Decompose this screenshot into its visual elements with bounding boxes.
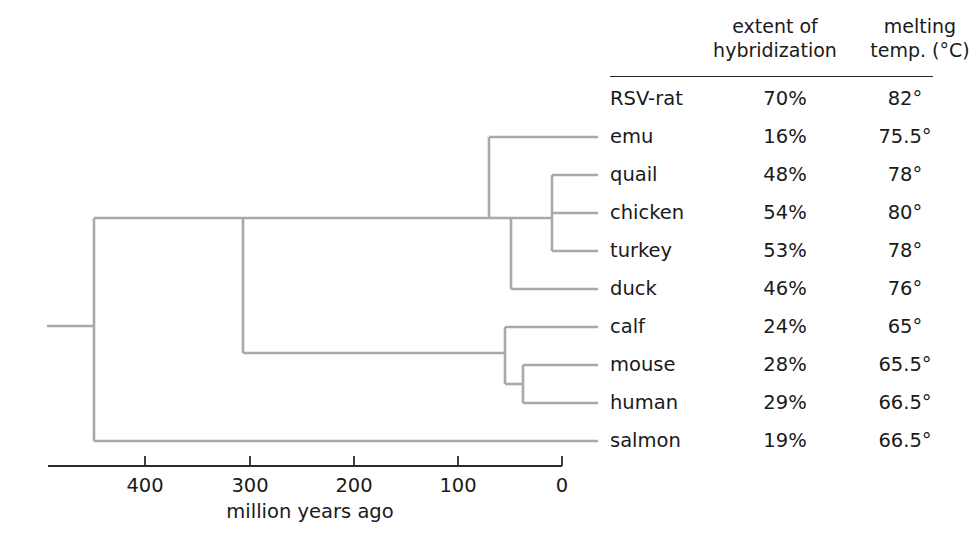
- tree-branches: [47, 137, 598, 441]
- table-row: chicken54%80°: [600, 200, 977, 226]
- phylogeny-figure: extent of hybridization melting temp. (°…: [0, 0, 977, 554]
- table-row: mouse28%65.5°: [600, 352, 977, 378]
- hybridization-value: 53%: [730, 238, 840, 264]
- melting-temp-value: 82°: [850, 86, 960, 112]
- hybridization-value: 29%: [730, 390, 840, 416]
- column-header-hybridization-line1: extent of: [695, 14, 855, 38]
- melting-temp-value: 75.5°: [850, 124, 960, 150]
- table-row: human29%66.5°: [600, 390, 977, 416]
- table-row: turkey53%78°: [600, 238, 977, 264]
- table-row: quail48%78°: [600, 162, 977, 188]
- taxon-name: RSV-rat: [610, 86, 750, 112]
- taxon-name: mouse: [610, 352, 750, 378]
- taxon-name: quail: [610, 162, 750, 188]
- axis-caption: million years ago: [120, 500, 500, 524]
- hybridization-value: 19%: [730, 428, 840, 454]
- melting-temp-value: 65.5°: [850, 352, 960, 378]
- taxon-name: emu: [610, 124, 750, 150]
- melting-temp-value: 65°: [850, 314, 960, 340]
- hybridization-value: 16%: [730, 124, 840, 150]
- column-header-hybridization-line2: hybridization: [695, 38, 855, 62]
- data-table: extent of hybridization melting temp. (°…: [600, 0, 977, 554]
- axis-tick-label: 200: [319, 474, 389, 498]
- melting-temp-value: 78°: [850, 238, 960, 264]
- melting-temp-value: 76°: [850, 276, 960, 302]
- column-header-hybridization: extent of hybridization: [695, 14, 855, 62]
- column-header-melting-temp-line2: temp. (°C): [845, 38, 977, 62]
- hybridization-value: 28%: [730, 352, 840, 378]
- axis-tick-label: 400: [110, 474, 180, 498]
- hybridization-value: 70%: [730, 86, 840, 112]
- hybridization-value: 48%: [730, 162, 840, 188]
- taxon-name: calf: [610, 314, 750, 340]
- hybridization-value: 24%: [730, 314, 840, 340]
- taxon-name: duck: [610, 276, 750, 302]
- taxon-name: salmon: [610, 428, 750, 454]
- axis-tick-label: 0: [527, 474, 597, 498]
- table-row: RSV-rat70%82°: [600, 86, 977, 112]
- melting-temp-value: 78°: [850, 162, 960, 188]
- column-header-melting-temp: melting temp. (°C): [845, 14, 977, 62]
- taxon-name: human: [610, 390, 750, 416]
- taxon-name: turkey: [610, 238, 750, 264]
- melting-temp-value: 66.5°: [850, 428, 960, 454]
- time-axis: [48, 456, 562, 466]
- column-header-melting-temp-line1: melting: [845, 14, 977, 38]
- table-header-rule: [610, 76, 933, 77]
- table-row: salmon19%66.5°: [600, 428, 977, 454]
- melting-temp-value: 80°: [850, 200, 960, 226]
- table-row: duck46%76°: [600, 276, 977, 302]
- axis-tick-label: 100: [423, 474, 493, 498]
- axis-tick-label: 300: [215, 474, 285, 498]
- hybridization-value: 46%: [730, 276, 840, 302]
- taxon-name: chicken: [610, 200, 750, 226]
- hybridization-value: 54%: [730, 200, 840, 226]
- table-row: calf24%65°: [600, 314, 977, 340]
- melting-temp-value: 66.5°: [850, 390, 960, 416]
- table-row: emu16%75.5°: [600, 124, 977, 150]
